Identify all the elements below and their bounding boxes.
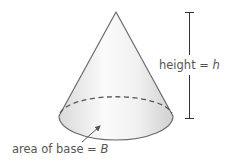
base-area-label: area of base = B xyxy=(12,142,108,156)
cone-body xyxy=(59,12,173,140)
height-label: height = h xyxy=(159,58,220,72)
cone-diagram: height = h area of base = B xyxy=(0,0,228,161)
